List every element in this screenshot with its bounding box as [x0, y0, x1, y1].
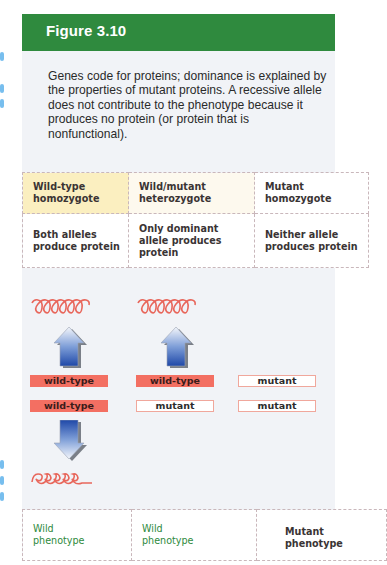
phenotype-wild-1: Wild phenotype [23, 510, 132, 561]
allele-bar-mutant: mutant [238, 400, 316, 412]
header-wild-type-homozygote: Wild-type homozygote [23, 173, 129, 214]
protein-coil-icon [136, 297, 216, 319]
allele-bar-wild-type: wild-type [30, 400, 108, 412]
header-mutant-homozygote: Mutant homozygote [255, 173, 369, 214]
genotype-description-row: Both alleles produce protein Only domina… [23, 214, 369, 268]
arrow-down-icon [50, 420, 88, 462]
description-heterozygote: Only dominant allele produces protein [129, 214, 255, 268]
allele-bar-mutant: mutant [136, 400, 214, 412]
arrow-up-icon [157, 326, 195, 368]
figure-caption: Genes code for proteins; dominance is ex… [48, 69, 328, 141]
phenotype-wild-2: Wild phenotype [132, 510, 257, 561]
figure-header: Figure 3.10 [22, 14, 335, 51]
scan-artifact [0, 492, 4, 501]
figure-title: Figure 3.10 [46, 22, 126, 39]
scan-artifact [0, 84, 4, 93]
phenotype-row: Wild phenotype Wild phenotype Mutant phe… [23, 510, 387, 561]
header-heterozygote: Wild/mutant heterozygote [129, 173, 255, 214]
phenotype-mutant: Mutant phenotype [257, 510, 387, 561]
scan-artifact [0, 52, 4, 61]
scan-artifact [0, 99, 4, 108]
protein-coil-icon [30, 297, 110, 319]
phenotype-table: Wild phenotype Wild phenotype Mutant phe… [22, 509, 387, 561]
protein-coil-icon [30, 466, 110, 488]
allele-bar-mutant: mutant [238, 375, 316, 387]
genotype-header-row: Wild-type homozygote Wild/mutant heteroz… [23, 173, 369, 214]
allele-bar-wild-type: wild-type [136, 375, 214, 387]
description-wild-type: Both alleles produce protein [23, 214, 129, 268]
genotype-table: Wild-type homozygote Wild/mutant heteroz… [22, 172, 369, 268]
arrow-up-icon [50, 326, 88, 368]
scan-artifact [0, 460, 4, 469]
scan-artifact [0, 476, 4, 485]
allele-bar-wild-type: wild-type [30, 375, 108, 387]
description-mutant: Neither allele produces protein [255, 214, 369, 268]
